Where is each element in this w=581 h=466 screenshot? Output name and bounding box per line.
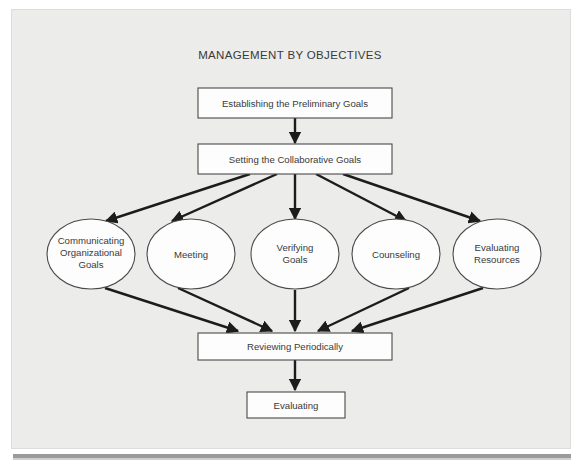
node-establishing-the-preliminary-goals[interactable]: Establishing the Preliminary Goals	[198, 88, 392, 118]
edge-communicating-to-reviewing	[105, 288, 238, 331]
node-evaluating-resources[interactable]: Evaluating Resources	[453, 219, 541, 289]
node-label-verifying-line2: Goals	[282, 254, 307, 265]
node-label-reviewing: Reviewing Periodically	[247, 341, 343, 352]
edge-meeting-to-reviewing	[178, 288, 272, 331]
node-label-establishing: Establishing the Preliminary Goals	[222, 98, 368, 109]
node-counseling[interactable]: Counseling	[352, 219, 440, 289]
node-label-verifying-line1: Verifying	[277, 242, 314, 253]
node-meeting[interactable]: Meeting	[147, 219, 235, 289]
node-label-communicating-line2: Organizational	[60, 247, 122, 258]
node-communicating-organizational-goals[interactable]: Communicating Organizational Goals	[47, 219, 135, 289]
management-by-objectives-diagram: MANAGEMENT BY OBJECTIVES Establishing	[0, 0, 581, 466]
diagram-title: MANAGEMENT BY OBJECTIVES	[198, 49, 382, 61]
node-label-evaluating-resources-line2: Resources	[474, 254, 520, 265]
node-setting-the-collaborative-goals[interactable]: Setting the Collaborative Goals	[198, 144, 392, 174]
node-label-meeting: Meeting	[174, 249, 208, 260]
scanned-page: MANAGEMENT BY OBJECTIVES Establishing	[0, 0, 581, 466]
edge-setting-to-meeting	[172, 174, 277, 221]
node-label-communicating-line3: Goals	[78, 259, 103, 270]
node-verifying-goals[interactable]: Verifying Goals	[251, 219, 339, 289]
edge-setting-to-communicating	[106, 174, 250, 221]
node-label-counseling: Counseling	[372, 249, 420, 260]
node-label-communicating-line1: Communicating	[58, 235, 125, 246]
node-reviewing-periodically[interactable]: Reviewing Periodically	[198, 333, 392, 360]
node-label-setting: Setting the Collaborative Goals	[229, 154, 361, 165]
node-evaluating[interactable]: Evaluating	[247, 392, 345, 418]
node-label-evaluating-resources-line1: Evaluating	[475, 242, 520, 253]
edge-evaluating-resources-to-reviewing	[352, 288, 483, 331]
node-label-evaluating: Evaluating	[274, 400, 319, 411]
edge-counseling-to-reviewing	[318, 288, 409, 331]
